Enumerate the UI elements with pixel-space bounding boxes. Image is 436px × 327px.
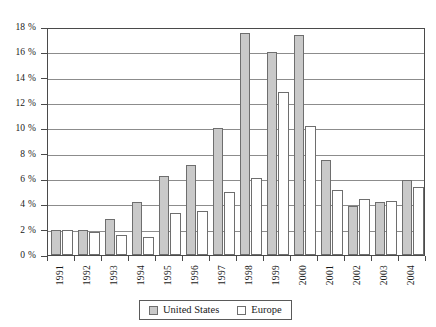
- x-axis-tick-label: 2000: [299, 265, 309, 285]
- x-axis-tick-label: 1997: [218, 265, 228, 285]
- x-axis-tick-mark: [290, 256, 291, 261]
- x-axis-tick-mark: [47, 256, 48, 261]
- x-axis-tick-label: 1999: [272, 265, 282, 285]
- x-axis-tick-label: 1996: [191, 265, 201, 285]
- y-axis-tick-label: 6 %: [20, 175, 36, 185]
- x-axis-tick-mark: [236, 256, 237, 261]
- x-axis-tick-mark: [101, 256, 102, 261]
- y-axis-tick-label: 12 %: [15, 99, 36, 109]
- x-axis-tick-mark: [182, 256, 183, 261]
- x-axis-tick-mark: [209, 256, 210, 261]
- x-axis-tick-label: 2003: [380, 265, 390, 285]
- x-axis-tick-mark: [263, 256, 264, 261]
- y-axis-tick-label: 2 %: [20, 226, 36, 236]
- y-axis-tick-label: 8 %: [20, 150, 36, 160]
- chart-legend: United StatesEurope: [139, 300, 292, 320]
- bar-united-states-2004: [402, 180, 413, 255]
- legend-label: United States: [163, 305, 219, 316]
- x-axis-tick-mark: [425, 256, 426, 261]
- y-axis-tick-label: 4 %: [20, 201, 36, 211]
- x-axis-tick-label: 2002: [353, 265, 363, 285]
- bar-chart: 0 %2 %4 %6 %8 %10 %12 %14 %16 %18 % 1991…: [0, 0, 436, 327]
- x-axis-tick-label: 1998: [245, 265, 255, 285]
- legend-swatch-icon: [237, 306, 246, 315]
- y-axis-tick-label: 16 %: [15, 49, 36, 59]
- y-axis-tick-label: 18 %: [15, 23, 36, 33]
- y-axis-tick-label: 0 %: [20, 251, 36, 261]
- x-axis-tick-mark: [317, 256, 318, 261]
- x-axis-tick-label: 1995: [164, 265, 174, 285]
- x-axis-tick-mark: [398, 256, 399, 261]
- x-axis-tick-label: 1994: [137, 265, 147, 285]
- x-axis-tick-mark: [371, 256, 372, 261]
- legend-swatch-icon: [149, 306, 158, 315]
- x-axis-tick-label: 1992: [83, 265, 93, 285]
- legend-entry-europe: Europe: [237, 305, 281, 316]
- x-axis-tick-mark: [128, 256, 129, 261]
- x-axis: 1991199219931994199519961997199819992000…: [47, 256, 425, 302]
- x-axis-tick-label: 2001: [326, 265, 336, 285]
- x-axis-tick-label: 1993: [110, 265, 120, 285]
- bar-group: [48, 29, 426, 255]
- y-axis-tick-label: 10 %: [15, 125, 36, 135]
- legend-label: Europe: [251, 305, 281, 316]
- x-axis-tick-label: 1991: [56, 265, 66, 285]
- y-axis: 0 %2 %4 %6 %8 %10 %12 %14 %16 %18 %: [0, 0, 47, 327]
- x-axis-tick-mark: [155, 256, 156, 261]
- x-axis-tick-mark: [74, 256, 75, 261]
- legend-entry-united-states: United States: [149, 305, 219, 316]
- y-axis-tick-label: 14 %: [15, 74, 36, 84]
- bar-europe-2004: [413, 187, 424, 255]
- plot-area: [47, 28, 425, 256]
- x-axis-tick-label: 2004: [407, 265, 417, 285]
- x-axis-tick-mark: [344, 256, 345, 261]
